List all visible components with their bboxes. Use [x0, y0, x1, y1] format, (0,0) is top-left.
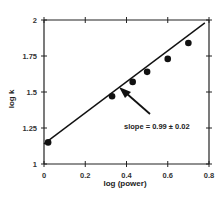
x-tick-label: 0.6 [163, 171, 173, 180]
data-point [185, 40, 192, 47]
y-tick-label: 1.25 [22, 124, 37, 133]
chart-svg: 00.20.40.60.8 11.251.51.752 slope = 0.99… [0, 0, 220, 197]
y-tick-label: 1.75 [22, 52, 37, 61]
data-point [129, 79, 136, 86]
data-point [164, 56, 171, 63]
y-tick-label: 1.5 [27, 88, 37, 97]
y-tick-label: 2 [33, 16, 37, 25]
x-tick-label: 0.8 [204, 171, 214, 180]
data-point [109, 93, 116, 100]
y-axis-title: log k [7, 89, 16, 108]
x-tick-label: 0 [42, 171, 46, 180]
y-tick-labels: 11.251.51.752 [22, 16, 37, 169]
slope-annotation: slope = 0.99 ± 0.02 [124, 122, 190, 131]
data-point [144, 69, 151, 76]
annotation-arrow [119, 87, 150, 114]
data-point [45, 139, 52, 146]
x-tick-label: 0.2 [80, 171, 90, 180]
x-axis-title: log (power) [103, 179, 146, 188]
y-tick-label: 1 [33, 160, 37, 169]
